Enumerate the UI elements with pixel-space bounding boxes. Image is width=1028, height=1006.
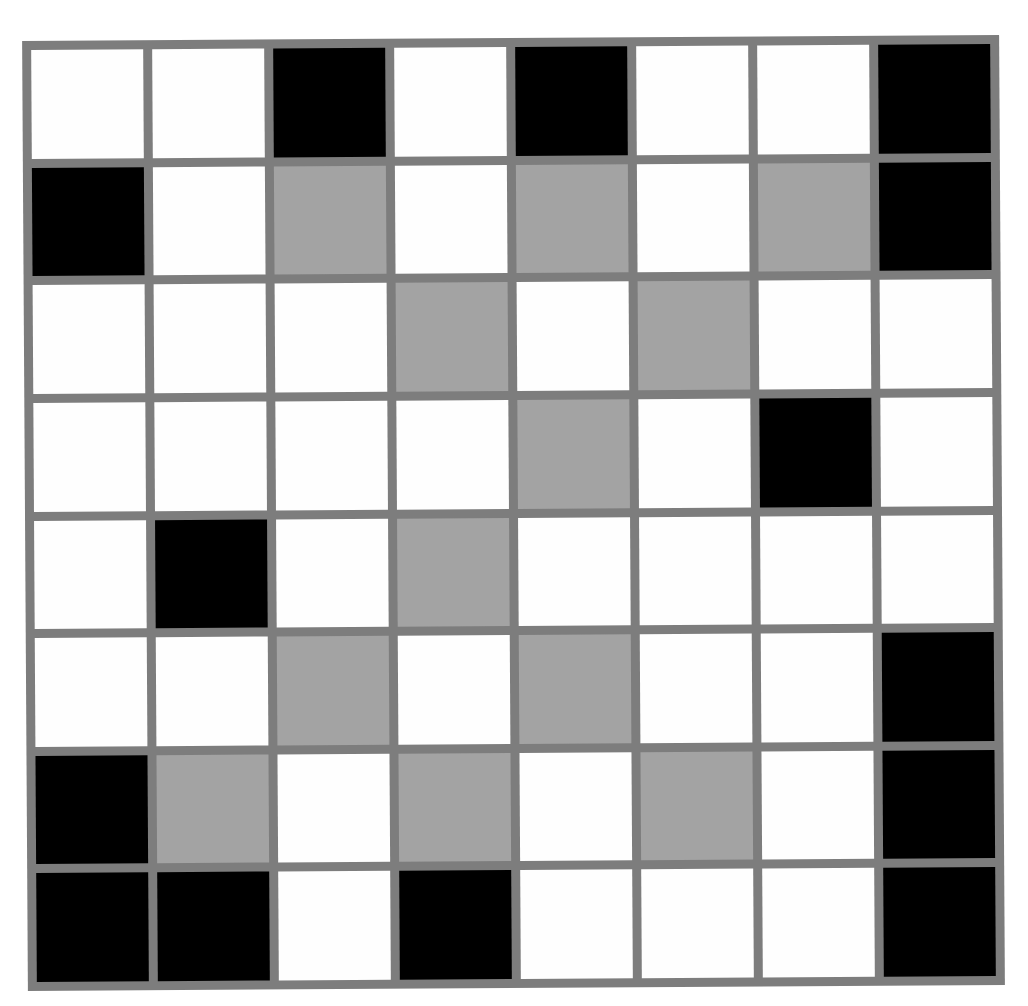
grid-cell-r4-c2-white[interactable]: [276, 518, 389, 627]
grid-cell-r1-c4-gray[interactable]: [516, 164, 629, 273]
grid-cell-r2-c5-gray[interactable]: [638, 281, 751, 390]
grid-cell-r4-c4-white[interactable]: [518, 517, 631, 626]
grid-cell-r2-c4-white[interactable]: [517, 282, 630, 391]
puzzle-page: [0, 0, 1028, 1006]
grid-cell-r6-c6-white[interactable]: [761, 751, 874, 860]
grid-cell-r6-c0-black[interactable]: [35, 755, 148, 864]
grid-cell-r0-c5-white[interactable]: [636, 46, 749, 155]
grid-cell-r0-c3-white[interactable]: [394, 47, 507, 156]
grid-cell-r0-c1-white[interactable]: [152, 49, 265, 158]
grid-cell-r5-c3-white[interactable]: [398, 635, 511, 744]
grid-cell-r4-c5-white[interactable]: [639, 516, 752, 625]
grid-cell-r6-c1-gray[interactable]: [156, 754, 269, 863]
grid-cell-r4-c1-black[interactable]: [155, 519, 268, 628]
grid-cell-r0-c4-black[interactable]: [515, 46, 628, 155]
grid-cell-r3-c0-white[interactable]: [33, 402, 146, 511]
grid-cell-r5-c7-black[interactable]: [882, 632, 995, 741]
grid-cell-r0-c6-white[interactable]: [757, 45, 870, 154]
grid-cell-r7-c2-white[interactable]: [278, 871, 391, 980]
grid-cell-r2-c7-white[interactable]: [880, 279, 993, 388]
grid-cell-r4-c7-white[interactable]: [881, 515, 994, 624]
grid-cell-r3-c1-white[interactable]: [154, 401, 267, 510]
grid-cell-r0-c0-white[interactable]: [31, 49, 144, 158]
grid-cell-r1-c6-gray[interactable]: [758, 162, 871, 271]
grid-cell-r6-c2-white[interactable]: [277, 754, 390, 863]
grid-cell-r1-c3-white[interactable]: [395, 165, 508, 274]
grid-cell-r4-c3-gray[interactable]: [397, 518, 510, 627]
grid-cell-r5-c1-white[interactable]: [156, 637, 269, 746]
grid-cell-r4-c6-white[interactable]: [760, 515, 873, 624]
grid-cell-r6-c4-white[interactable]: [519, 752, 632, 861]
grid-cell-r5-c4-gray[interactable]: [519, 634, 632, 743]
grid-cell-r6-c7-black[interactable]: [882, 750, 995, 859]
puzzle-grid: [22, 35, 1005, 991]
grid-cell-r3-c4-gray[interactable]: [517, 399, 630, 508]
grid-cell-r1-c2-gray[interactable]: [274, 165, 387, 274]
grid-cell-r7-c5-white[interactable]: [641, 869, 754, 978]
grid-cell-r5-c0-white[interactable]: [35, 637, 148, 746]
grid-cell-r3-c7-white[interactable]: [880, 397, 993, 506]
grid-cell-r2-c2-white[interactable]: [275, 283, 388, 392]
grid-cell-r5-c5-white[interactable]: [640, 634, 753, 743]
grid-cell-r0-c2-black[interactable]: [273, 48, 386, 157]
grid-cell-r2-c0-white[interactable]: [33, 284, 146, 393]
grid-cell-r1-c7-black[interactable]: [879, 162, 992, 271]
grid-cell-r7-c6-white[interactable]: [762, 868, 875, 977]
grid-cell-r3-c3-white[interactable]: [396, 400, 509, 509]
grid-cell-r3-c5-white[interactable]: [638, 398, 751, 507]
grid-cell-r7-c4-white[interactable]: [520, 870, 633, 979]
grid-cell-r1-c1-white[interactable]: [153, 166, 266, 275]
grid-cell-r5-c6-white[interactable]: [761, 633, 874, 742]
grid-cell-r5-c2-gray[interactable]: [277, 636, 390, 745]
grid-cell-r2-c3-gray[interactable]: [396, 282, 509, 391]
grid-cell-r7-c3-black[interactable]: [399, 870, 512, 979]
grid-cell-r3-c6-black[interactable]: [759, 398, 872, 507]
grid-cell-r7-c0-black[interactable]: [36, 873, 149, 982]
grid-cell-r7-c7-black[interactable]: [883, 867, 996, 976]
grid-cell-r3-c2-white[interactable]: [275, 401, 388, 510]
grid-cell-r1-c0-black[interactable]: [32, 167, 145, 276]
grid-cell-r7-c1-black[interactable]: [157, 872, 270, 981]
grid-cell-r6-c5-gray[interactable]: [640, 751, 753, 860]
grid-cell-r6-c3-gray[interactable]: [398, 753, 511, 862]
grid-cell-r1-c5-white[interactable]: [637, 163, 750, 272]
grid-cell-r4-c0-white[interactable]: [34, 520, 147, 629]
grid-cell-r2-c1-white[interactable]: [154, 284, 267, 393]
grid-cell-r2-c6-white[interactable]: [759, 280, 872, 389]
grid-cell-r0-c7-black[interactable]: [878, 44, 991, 153]
